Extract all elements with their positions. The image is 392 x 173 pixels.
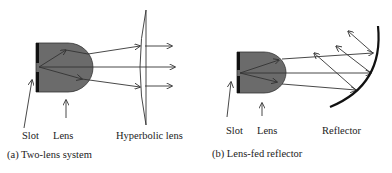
panel-a-hyperbolic-lens-label: Hyperbolic lens: [116, 130, 183, 141]
panel-a-slot-bottom: [36, 72, 39, 92]
panel-a-hyperbolic-lens: [140, 10, 146, 125]
panel-b-slot-pointer-arrow: [227, 82, 231, 117]
panel-b-slot-top: [237, 52, 240, 70]
panel-a-caption: (a) Two-lens system: [7, 149, 92, 161]
panel-a-slot-top: [36, 43, 39, 63]
panel-a-two-lens-system: Slot Lens Hyperbolic lens (a) Two-lens s…: [7, 10, 183, 161]
panel-a-slot-label: Slot: [22, 130, 39, 141]
panel-b-caption: (b) Lens-fed reflector: [212, 148, 303, 160]
panel-b-reflector-label: Reflector: [322, 125, 362, 136]
panel-a-lens-label: Lens: [53, 130, 73, 141]
diagram-canvas: Slot Lens Hyperbolic lens (a) Two-lens s…: [0, 0, 392, 173]
panel-b-slot-bottom: [237, 76, 240, 93]
panel-a-lens-body: [36, 43, 93, 92]
panel-b-reflector-curve: [330, 26, 379, 107]
panel-b-lens-body: [237, 52, 286, 93]
panel-b-lens-fed-reflector: Slot Lens Reflector (b) Lens-fed reflect…: [212, 26, 379, 160]
panel-b-lens-label: Lens: [257, 125, 277, 136]
panel-b-slot-label: Slot: [226, 125, 243, 136]
panel-a-slot-pointer-arrow: [24, 80, 32, 128]
